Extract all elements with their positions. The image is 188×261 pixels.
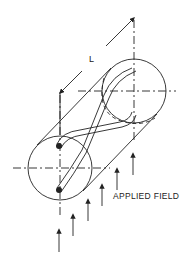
- wire-terminal-bottom: [56, 187, 62, 193]
- dimension-arrow-top: [106, 19, 133, 46]
- dimension-label-l: L: [89, 54, 94, 64]
- twisted-wire-pair: [57, 68, 136, 192]
- diagram-svg: [0, 0, 188, 261]
- dimension-arrow-bottom: [61, 71, 82, 92]
- cylinder-bottom-edge: [83, 114, 157, 191]
- applied-field-label: APPLIED FIELD: [113, 191, 179, 201]
- wire-terminal-top: [56, 143, 62, 149]
- diagram-canvas: L APPLIED FIELD: [0, 0, 188, 261]
